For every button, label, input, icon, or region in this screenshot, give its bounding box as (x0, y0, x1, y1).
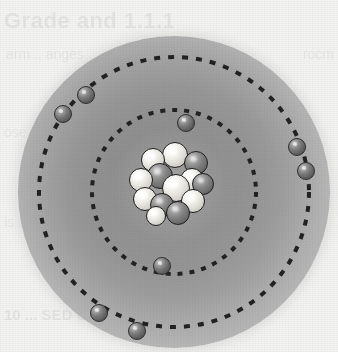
electron-outer-shell (128, 322, 146, 340)
electron-outer-shell (77, 86, 95, 104)
electron-outer-shell (288, 138, 306, 156)
bleed-text-title: Grade and 1.1.1 (4, 8, 175, 34)
figure-alt-text: Shaded sphere representing the electron … (0, 0, 1, 1)
electron-inner-shell (153, 257, 171, 275)
bleed-text-line2: ose (4, 124, 27, 140)
figure-title: Bohr model of the atom (0, 0, 1, 1)
electron-outer-shell (297, 162, 315, 180)
bleed-text-right1: rocm (303, 46, 334, 62)
nucleus-neutron (166, 201, 190, 225)
nucleus-proton (146, 206, 166, 226)
electron-inner-shell (177, 114, 195, 132)
atom-diagram-figure: Bohr model of the atom Shaded sphere rep… (0, 0, 338, 352)
electron-outer-shell (90, 304, 108, 322)
bleed-text-line1: arm .. anges (6, 46, 84, 62)
electron-outer-shell (54, 105, 72, 123)
